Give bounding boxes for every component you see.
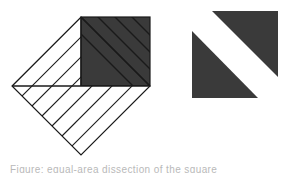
figure-caption: Figure: equal-area dissection of the squ… <box>10 165 217 173</box>
figure-root: Figure: equal-area dissection of the squ… <box>0 0 287 173</box>
caption-strip: Figure: equal-area dissection of the squ… <box>0 165 287 173</box>
geometry-figure <box>0 0 287 173</box>
